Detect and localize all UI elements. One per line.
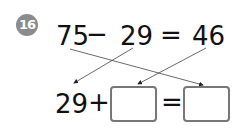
answer-box-2[interactable] xyxy=(183,86,230,122)
equals-sign-bottom: = xyxy=(161,89,183,115)
addend: 29 xyxy=(55,91,88,117)
plus-sign: + xyxy=(88,89,110,115)
arrow-75-to-answer xyxy=(70,49,203,85)
arrow-46-to-blank xyxy=(138,48,206,84)
answer-box-1[interactable] xyxy=(110,86,157,122)
arrow-29-to-29 xyxy=(74,48,133,83)
